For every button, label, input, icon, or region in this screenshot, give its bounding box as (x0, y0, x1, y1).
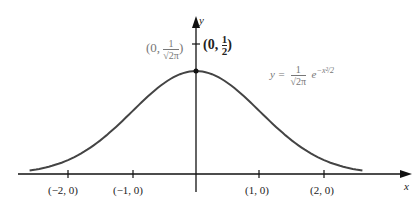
peak-point-label: (0, 1√2π) (146, 38, 183, 61)
x-axis-arrow-icon (400, 170, 412, 178)
curve-equation: y = 1√2π e−x²/2 (270, 64, 334, 87)
peak-point (194, 69, 199, 74)
tick-label-1: (1, 0) (245, 184, 269, 196)
plot-canvas (0, 0, 418, 205)
x-axis-label: x (404, 180, 409, 192)
y-axis-label: y (199, 14, 204, 26)
tick-label-neg2: (−2, 0) (48, 184, 78, 196)
half-point-label: (0, 12) (203, 34, 232, 57)
tick-label-2: (2, 0) (310, 184, 334, 196)
tick-label-neg1: (−1, 0) (113, 184, 143, 196)
normal-curve-diagram: y x (0, 1√2π) (0, 12) y = 1√2π e−x²/2 (−… (0, 0, 418, 205)
